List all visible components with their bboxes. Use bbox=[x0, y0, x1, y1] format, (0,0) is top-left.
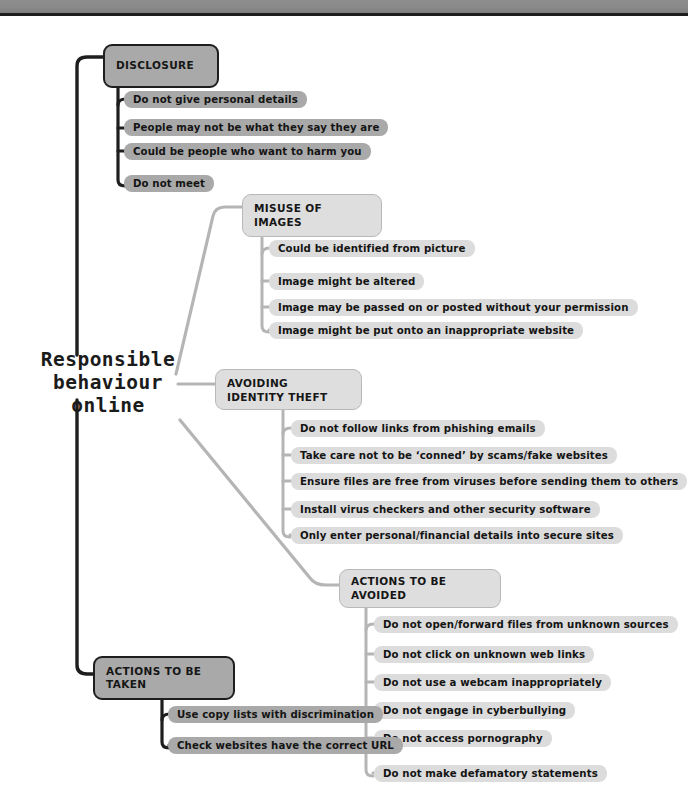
branch-title: ACTIONS TO BE TAKEN bbox=[106, 665, 222, 692]
branch-header-disclosure[interactable]: DISCLOSURE bbox=[103, 44, 219, 88]
branch-title: DISCLOSURE bbox=[116, 59, 194, 73]
leaf-node[interactable]: Image might be altered bbox=[269, 273, 424, 290]
leaf-node[interactable]: Do not open/forward files from unknown s… bbox=[374, 616, 678, 633]
leaf-node[interactable]: Do not make defamatory statements bbox=[374, 765, 607, 782]
branch-title: AVOIDING IDENTITY THEFT bbox=[227, 377, 347, 404]
branch-header-avoiding-identity-theft[interactable]: AVOIDING IDENTITY THEFT bbox=[215, 369, 362, 410]
leaf-node[interactable]: Install virus checkers and other securit… bbox=[291, 501, 600, 518]
leaf-node[interactable]: Ensure files are free from viruses befor… bbox=[291, 473, 687, 490]
connector-root-actions-taken bbox=[77, 400, 98, 674]
leaf-node[interactable]: Image may be passed on or posted without… bbox=[269, 299, 638, 316]
leaf-node[interactable]: Use copy lists with discrimination bbox=[168, 706, 383, 723]
leaf-node[interactable]: Do not give personal details bbox=[124, 91, 307, 108]
branch-header-actions-to-be-taken[interactable]: ACTIONS TO BE TAKEN bbox=[93, 656, 235, 700]
root-label: Responsible behaviour online bbox=[8, 348, 208, 417]
branch-title: MISUSE OF IMAGES bbox=[254, 202, 370, 229]
leaf-node[interactable]: Check websites have the correct URL bbox=[168, 737, 403, 754]
leaf-node[interactable]: Do not engage in cyberbullying bbox=[374, 702, 575, 719]
branch-title: ACTIONS TO BE AVOIDED bbox=[351, 575, 489, 602]
leaf-node[interactable]: Do not meet bbox=[124, 175, 214, 192]
leaf-node[interactable]: Could be identified from picture bbox=[269, 240, 475, 257]
leaf-node[interactable]: Could be people who want to harm you bbox=[124, 143, 371, 160]
connector-root-disclosure bbox=[77, 57, 104, 355]
branch-header-misuse-of-images[interactable]: MISUSE OF IMAGES bbox=[242, 194, 382, 237]
leaf-node[interactable]: Do not use a webcam inappropriately bbox=[374, 674, 611, 691]
leaf-node[interactable]: Image might be put onto an inappropriate… bbox=[269, 322, 583, 339]
leaf-node[interactable]: People may not be what they say they are bbox=[124, 119, 388, 136]
leaf-node[interactable]: Do not click on unknown web links bbox=[374, 646, 594, 663]
leaf-node[interactable]: Take care not to be ‘conned’ by scams/fa… bbox=[291, 447, 617, 464]
leaf-node[interactable]: Do not follow links from phishing emails bbox=[291, 420, 545, 437]
leaf-node[interactable]: Only enter personal/financial details in… bbox=[291, 527, 623, 544]
mind-map-canvas: Responsible behaviour online DISCLOSURE … bbox=[0, 0, 688, 805]
branch-header-actions-to-be-avoided[interactable]: ACTIONS TO BE AVOIDED bbox=[339, 569, 501, 608]
